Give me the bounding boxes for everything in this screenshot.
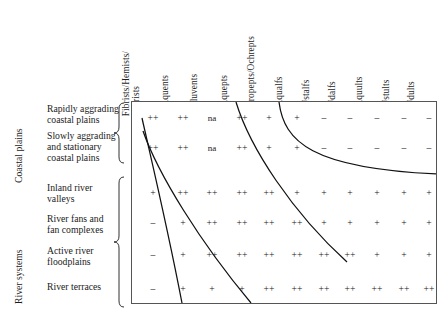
cell-river-terraces-ustalfs: ++ — [319, 284, 330, 294]
cell-slowly-aggrading-and-stationary-coastal-plains-histosols: ++ — [148, 143, 159, 153]
column-header-tropepts: Tropepts/Ochrepts — [247, 36, 257, 107]
cell-river-fans-and-fan-complexes-udalfs: + — [347, 218, 352, 228]
cell-active-river-floodplains-histosols: – — [151, 250, 156, 260]
cell-slowly-aggrading-and-stationary-coastal-plains-ustults: – — [402, 143, 407, 153]
cell-river-terraces-ustults: ++ — [399, 284, 410, 294]
cell-slowly-aggrading-and-stationary-coastal-plains-udults: – — [427, 143, 432, 153]
cell-active-river-floodplains-aquults: + — [374, 250, 379, 260]
soil-suborder-matrix-figure: Fibrists/Hemists/ SapristsAquentsFluvent… — [0, 0, 443, 325]
cell-river-terraces-aquents: + — [180, 284, 185, 294]
cell-rapidly-aggrading-coastal-plains-fluvents: na — [208, 113, 217, 123]
cell-inland-river-valleys-aquepts: ++ — [237, 188, 248, 198]
cell-river-fans-and-fan-complexes-aqualfs: ++ — [292, 218, 303, 228]
cell-active-river-floodplains-fluvents: ++ — [207, 250, 218, 260]
cell-inland-river-valleys-aqualfs: + — [294, 188, 299, 198]
cell-slowly-aggrading-and-stationary-coastal-plains-aqualfs: + — [294, 143, 299, 153]
boundary-curve-2 — [143, 131, 251, 303]
cell-active-river-floodplains-udalfs: ++ — [345, 250, 356, 260]
boundary-curve-3 — [236, 102, 347, 262]
cell-river-terraces-aqualfs: ++ — [292, 284, 303, 294]
cell-rapidly-aggrading-coastal-plains-aquults: – — [375, 113, 380, 123]
cell-rapidly-aggrading-coastal-plains-ustalfs: – — [322, 113, 327, 123]
cell-active-river-floodplains-aquepts: ++ — [237, 250, 248, 260]
cell-slowly-aggrading-and-stationary-coastal-plains-fluvents: na — [208, 143, 217, 153]
row-label-slowly-aggrading-and-stationary-coastal-plains: Slowly aggrading and stationary coastal … — [47, 131, 129, 163]
row-label-river-terraces: River terraces — [47, 282, 129, 293]
cell-rapidly-aggrading-coastal-plains-udults: – — [427, 113, 432, 123]
cell-river-terraces-aquepts: + — [239, 284, 244, 294]
cell-slowly-aggrading-and-stationary-coastal-plains-tropepts: + — [266, 143, 271, 153]
row-label-rapidly-aggrading-coastal-plains: Rapidly aggrading coastal plains — [47, 104, 129, 126]
cell-inland-river-valleys-aquents: ++ — [178, 188, 189, 198]
cell-active-river-floodplains-aquents: + — [180, 250, 185, 260]
cell-river-fans-and-fan-complexes-fluvents: ++ — [207, 218, 218, 228]
cell-slowly-aggrading-and-stationary-coastal-plains-aquents: ++ — [178, 143, 189, 153]
cell-river-terraces-fluvents: + — [209, 284, 214, 294]
cell-river-terraces-aquults: ++ — [372, 284, 383, 294]
boundary-curve-4 — [279, 102, 436, 174]
cell-rapidly-aggrading-coastal-plains-aquents: ++ — [178, 113, 189, 123]
boundary-curves-svg — [132, 102, 436, 303]
cell-river-terraces-tropepts: ++ — [264, 284, 275, 294]
cell-active-river-floodplains-aqualfs: ++ — [292, 250, 303, 260]
cell-active-river-floodplains-ustults: + — [401, 250, 406, 260]
cell-river-fans-and-fan-complexes-aquents: + — [180, 218, 185, 228]
cell-slowly-aggrading-and-stationary-coastal-plains-aquults: – — [375, 143, 380, 153]
row-label-river-fans-and-fan-complexes: River fans and fan complexes — [47, 214, 129, 236]
cell-river-fans-and-fan-complexes-aquults: + — [374, 218, 379, 228]
cell-slowly-aggrading-and-stationary-coastal-plains-ustalfs: – — [322, 143, 327, 153]
cell-rapidly-aggrading-coastal-plains-aqualfs: + — [294, 113, 299, 123]
cell-river-fans-and-fan-complexes-ustults: + — [401, 218, 406, 228]
cell-rapidly-aggrading-coastal-plains-aquepts: ++ — [237, 113, 248, 123]
cell-rapidly-aggrading-coastal-plains-udalfs: – — [348, 113, 353, 123]
cell-river-terraces-udalfs: ++ — [345, 284, 356, 294]
cell-river-fans-and-fan-complexes-histosols: – — [151, 218, 156, 228]
cell-river-terraces-udults: ++ — [424, 284, 435, 294]
cell-active-river-floodplains-ustalfs: ++ — [319, 250, 330, 260]
cell-river-fans-and-fan-complexes-udults: + — [426, 218, 431, 228]
cell-inland-river-valleys-tropepts: ++ — [264, 188, 275, 198]
cell-inland-river-valleys-udults: + — [426, 188, 431, 198]
cell-active-river-floodplains-udults: + — [426, 250, 431, 260]
cell-inland-river-valleys-ustalfs: + — [321, 188, 326, 198]
cell-river-fans-and-fan-complexes-tropepts: ++ — [264, 218, 275, 228]
cell-river-terraces-histosols: – — [151, 284, 156, 294]
cell-rapidly-aggrading-coastal-plains-histosols: ++ — [148, 113, 159, 123]
cell-river-fans-and-fan-complexes-ustalfs: + — [321, 218, 326, 228]
cell-rapidly-aggrading-coastal-plains-tropepts: + — [266, 113, 271, 123]
row-label-inland-river-valleys: Inland river valleys — [47, 183, 129, 205]
cell-slowly-aggrading-and-stationary-coastal-plains-aquepts: ++ — [237, 143, 248, 153]
cell-slowly-aggrading-and-stationary-coastal-plains-udalfs: – — [348, 143, 353, 153]
cell-inland-river-valleys-aquults: + — [374, 188, 379, 198]
group-label-coastal-plains: Coastal plains — [13, 128, 24, 183]
cell-inland-river-valleys-histosols: + — [150, 188, 155, 198]
row-label-active-river-floodplains: Active river floodplains — [47, 246, 129, 268]
group-label-river-systems: River systems — [13, 249, 24, 304]
cell-inland-river-valleys-fluvents: ++ — [207, 188, 218, 198]
cell-river-fans-and-fan-complexes-aquepts: ++ — [237, 218, 248, 228]
matrix-grid: ++++na++++–––––++++na++++–––––++++++++++… — [131, 101, 437, 304]
cell-rapidly-aggrading-coastal-plains-ustults: – — [402, 113, 407, 123]
cell-inland-river-valleys-udalfs: + — [347, 188, 352, 198]
cell-active-river-floodplains-tropepts: ++ — [264, 250, 275, 260]
cell-inland-river-valleys-ustults: + — [401, 188, 406, 198]
